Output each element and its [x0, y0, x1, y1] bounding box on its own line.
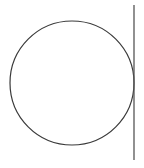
background [0, 0, 144, 168]
diagram-canvas [0, 0, 144, 168]
